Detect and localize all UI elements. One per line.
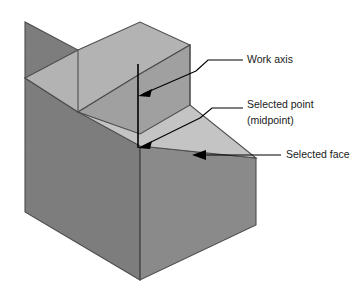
selected-face-label: Selected face	[286, 148, 350, 160]
selected-point-label-line2: (midpoint)	[247, 114, 294, 126]
stepped-block-diagram: Work axis Selected point (midpoint) Sele…	[0, 0, 360, 292]
selected-point-label-line1: Selected point	[247, 98, 314, 110]
work-axis-label: Work axis	[247, 53, 293, 65]
figure-root: Work axis Selected point (midpoint) Sele…	[0, 0, 360, 292]
